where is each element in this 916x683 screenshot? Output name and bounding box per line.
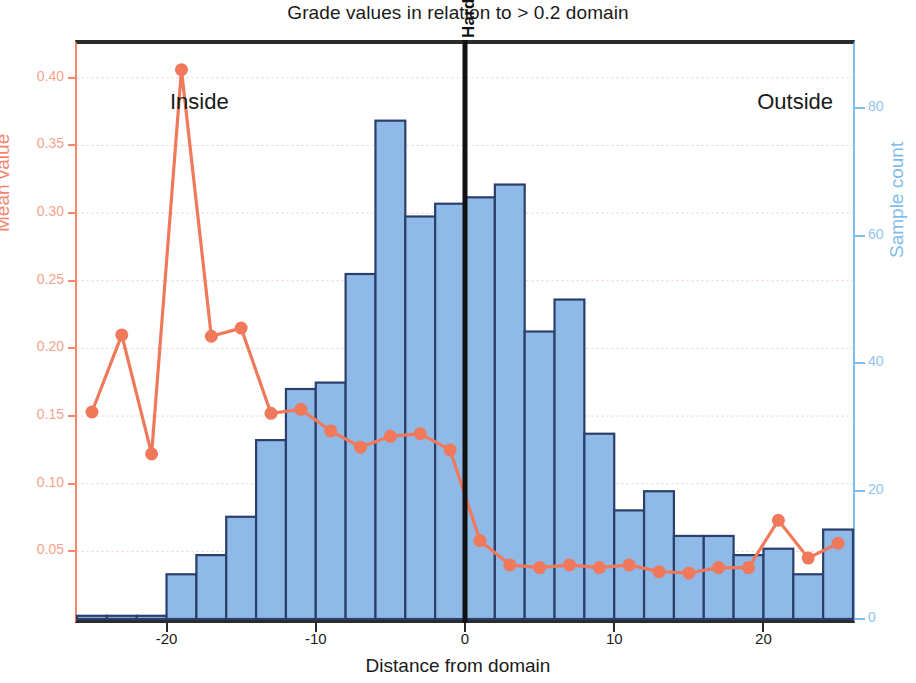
x-tick-mark (762, 622, 764, 632)
x-tick: -10 (292, 630, 340, 647)
outside-label: Outside (757, 89, 833, 115)
y-tick-mark-right (855, 235, 865, 237)
x-tick-mark (315, 622, 317, 632)
y-tick-left: 0.15 (12, 406, 64, 422)
x-tick-mark (166, 622, 168, 632)
y-tick-left: 0.35 (12, 135, 64, 151)
y-tick-mark-right (855, 362, 865, 364)
y-tick-left: 0.05 (12, 541, 64, 557)
y-tick-mark-right (855, 490, 865, 492)
x-tick: -20 (143, 630, 191, 647)
plot-area: Inside Outside (75, 40, 855, 623)
y-tick-left: 0.20 (12, 338, 64, 354)
y-tick-left: 0.10 (12, 474, 64, 490)
y-tick-right: 60 (868, 226, 908, 242)
x-axis-label: Distance from domain (0, 655, 916, 677)
hard-boundary-label: Hard boundary (459, 0, 479, 38)
y-tick-right: 80 (868, 98, 908, 114)
hard-boundary-line (77, 44, 853, 619)
inside-label: Inside (170, 89, 229, 115)
y-tick-right: 40 (868, 353, 908, 369)
y-tick-mark-right (855, 107, 865, 109)
y-tick-mark-right (855, 618, 865, 620)
y-tick-left: 0.25 (12, 271, 64, 287)
y-tick-left: 0.30 (12, 203, 64, 219)
x-tick: 20 (739, 630, 787, 647)
x-tick: 0 (441, 630, 489, 647)
x-tick-mark (613, 622, 615, 632)
chart-title: Grade values in relation to > 0.2 domain (0, 2, 916, 24)
x-tick: 10 (590, 630, 638, 647)
x-tick-mark (464, 622, 466, 632)
y-tick-right: 0 (868, 609, 908, 625)
chart-canvas: Grade values in relation to > 0.2 domain… (0, 0, 916, 683)
y-tick-right: 20 (868, 481, 908, 497)
y-tick-left: 0.40 (12, 68, 64, 84)
